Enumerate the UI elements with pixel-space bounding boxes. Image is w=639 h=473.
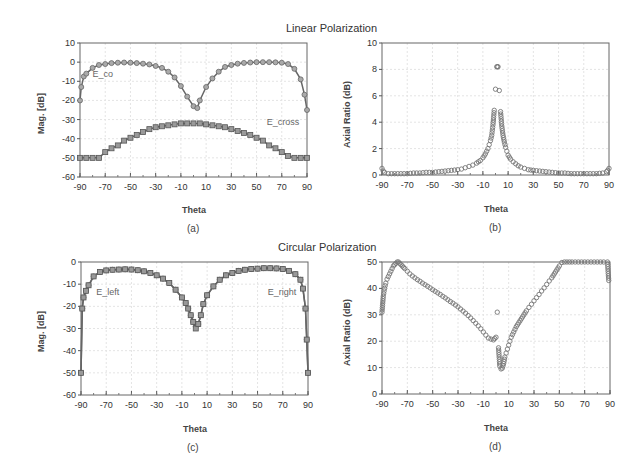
- x-tick-label: -10: [174, 182, 187, 192]
- x-tick-label: -70: [401, 399, 414, 409]
- y-tick-label: -40: [63, 346, 76, 356]
- series-label: E_right: [268, 287, 297, 297]
- x-tick-label: 70: [580, 399, 590, 409]
- x-tick-label: -30: [451, 399, 464, 409]
- y-tick-label: -10: [63, 279, 76, 289]
- x-tick-label: -70: [99, 182, 112, 192]
- plot-a: -90-70-50-30-101030507090100-10-20-30-40…: [62, 38, 312, 192]
- x-tick-label: 30: [227, 400, 237, 410]
- y-tick-label: -50: [62, 153, 75, 163]
- x-tick-label: -90: [73, 182, 86, 192]
- y-tick-label: -20: [63, 301, 76, 311]
- x-tick-label: -70: [100, 400, 113, 410]
- y-tick-label: -50: [63, 368, 76, 378]
- x-tick-label: 30: [529, 399, 539, 409]
- series-label: E_cross: [267, 117, 300, 127]
- y-tick-label: 0: [70, 57, 75, 67]
- y-tick-label: 0: [71, 257, 76, 267]
- x-tick-label: 90: [605, 399, 615, 409]
- x-tick-label: 70: [277, 182, 287, 192]
- x-tick-label: 90: [604, 180, 614, 190]
- x-tick-label: 90: [302, 182, 312, 192]
- x-tick-label: 30: [528, 180, 538, 190]
- x-tick-label: -90: [375, 180, 388, 190]
- x-tick-label: 70: [278, 400, 288, 410]
- y-tick-label: -30: [62, 115, 75, 125]
- y-tick-label: 2: [372, 144, 377, 154]
- x-tick-label: -30: [150, 400, 163, 410]
- y-tick-label: 4: [372, 117, 377, 127]
- y-tick-label: 30: [367, 310, 377, 320]
- x-tick-label: -30: [149, 182, 162, 192]
- y-tick-label: 0: [372, 170, 377, 180]
- x-tick-label: 30: [226, 182, 236, 192]
- y-tick-label: -10: [62, 76, 75, 86]
- x-tick-label: 70: [579, 180, 589, 190]
- x-tick-label: -50: [125, 400, 138, 410]
- y-tick-label: 10: [65, 38, 75, 48]
- series-line-E_cross: [80, 123, 307, 157]
- x-tick-label: -90: [375, 399, 388, 409]
- x-tick-label: 50: [554, 180, 564, 190]
- y-tick-label: 10: [367, 363, 377, 373]
- y-tick-label: 20: [367, 336, 377, 346]
- y-tick-label: -30: [63, 324, 76, 334]
- x-tick-label: -10: [477, 399, 490, 409]
- plot-canvas: -90-70-50-30-101030507090100-10-20-30-40…: [0, 0, 639, 473]
- y-tick-label: 40: [367, 283, 377, 293]
- series-label: E_left: [96, 287, 120, 297]
- x-tick-label: 90: [303, 400, 313, 410]
- y-tick-label: -40: [62, 134, 75, 144]
- y-tick-label: -20: [62, 95, 75, 105]
- x-tick-label: -10: [476, 180, 489, 190]
- x-tick-label: -50: [426, 180, 439, 190]
- plot-c: -90-70-50-30-1010305070900-10-20-30-40-5…: [63, 257, 313, 410]
- y-tick-label: -60: [63, 390, 76, 400]
- y-tick-label: -60: [62, 172, 75, 182]
- y-tick-label: 8: [372, 64, 377, 74]
- y-tick-label: 50: [367, 257, 377, 267]
- x-tick-label: -70: [401, 180, 414, 190]
- x-tick-label: 10: [202, 400, 212, 410]
- x-tick-label: 10: [201, 182, 211, 192]
- series-line-E_co: [80, 62, 307, 110]
- plot-d: -90-70-50-30-10103050709050403020100: [367, 257, 615, 409]
- x-tick-label: -30: [451, 180, 464, 190]
- series-label: E_co: [93, 69, 114, 79]
- x-tick-label: -10: [175, 400, 188, 410]
- y-tick-label: 6: [372, 91, 377, 101]
- x-tick-label: 50: [554, 399, 564, 409]
- x-tick-label: -90: [74, 400, 87, 410]
- x-tick-label: 50: [252, 182, 262, 192]
- x-tick-label: 50: [253, 400, 263, 410]
- x-tick-label: -50: [426, 399, 439, 409]
- plot-b: -90-70-50-30-1010305070901086420: [367, 38, 614, 190]
- x-tick-label: 10: [504, 399, 514, 409]
- x-tick-label: 10: [503, 180, 513, 190]
- y-tick-label: 0: [372, 389, 377, 399]
- x-tick-label: -50: [124, 182, 137, 192]
- y-tick-label: 10: [367, 38, 377, 48]
